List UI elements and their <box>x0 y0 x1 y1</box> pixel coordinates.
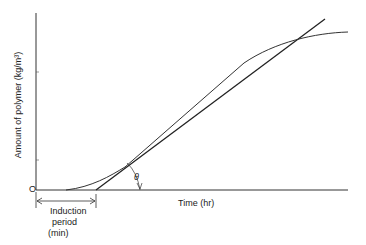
x-axis-label: Time (hr) <box>178 198 214 208</box>
polymer-curve <box>66 32 348 190</box>
tangent-line <box>96 19 325 190</box>
y-axis-label: Amount of polymer (kg/m³) <box>13 35 23 175</box>
induction-label-line1: Induction <box>50 206 87 216</box>
induction-label-line3: (min) <box>48 228 69 238</box>
induction-label-line2: period <box>52 217 77 227</box>
origin-label: O <box>29 184 36 194</box>
theta-label: θ <box>134 172 139 182</box>
